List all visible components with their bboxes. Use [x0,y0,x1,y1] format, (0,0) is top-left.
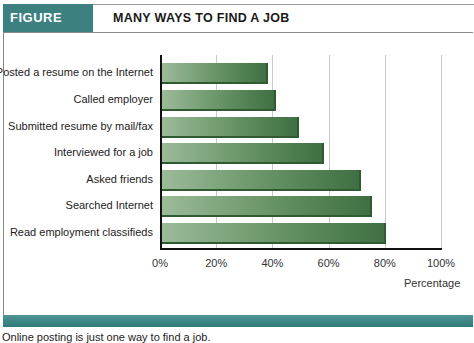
x-axis-line [160,248,442,250]
x-tick-label: 0% [152,257,168,269]
gridline [441,55,442,248]
gridline [329,55,330,248]
x-tick-label: 40% [261,257,283,269]
bar [161,170,361,191]
y-axis-line [160,55,162,248]
figure-number: FIGURE 11.13 [3,4,93,32]
decorative-band [3,315,473,327]
figure-caption: Online posting is just one way to find a… [2,331,211,343]
category-label: Posted a resume on the Internet [0,66,153,78]
figure-header: FIGURE 11.13 MANY WAYS TO FIND A JOB [3,4,473,33]
plot-area [160,55,442,248]
bar [161,223,386,244]
category-label: Searched Internet [66,199,153,211]
x-tick-label: 60% [318,257,340,269]
category-label: Submitted resume by mail/fax [8,120,153,132]
x-axis-title: Percentage [404,277,460,289]
gridline [385,55,386,248]
chart-title: MANY WAYS TO FIND A JOB [113,4,290,32]
category-label: Read employment classifieds [10,226,153,238]
x-tick-label: 20% [205,257,227,269]
x-tick-label: 80% [374,257,396,269]
bar [161,117,299,138]
bar [161,90,276,111]
bar [161,63,268,84]
bar [161,143,324,164]
x-tick-label: 100% [427,257,455,269]
category-label: Asked friends [86,173,153,185]
category-label: Interviewed for a job [54,146,153,158]
bar [161,196,372,217]
category-label: Called employer [74,93,153,105]
